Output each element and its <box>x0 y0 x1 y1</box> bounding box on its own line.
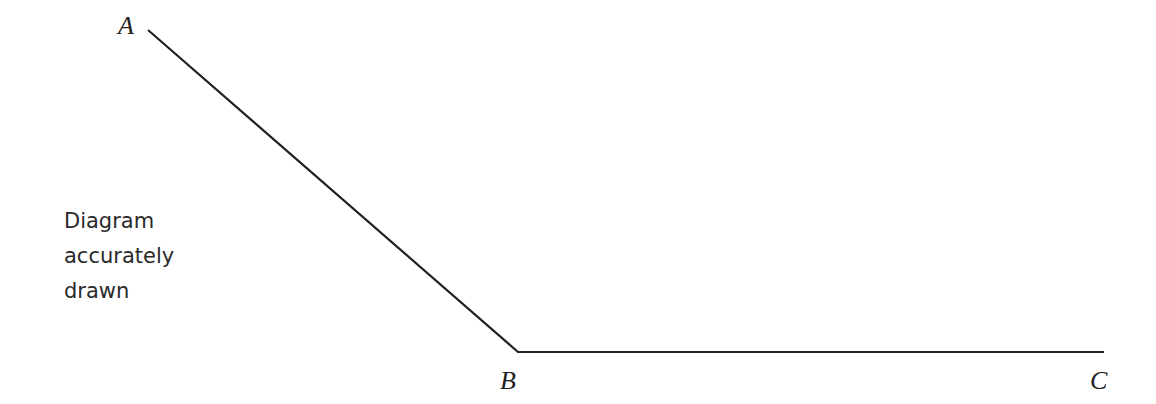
point-label-b: B <box>500 366 516 395</box>
note-line-1: Diagram <box>64 204 174 239</box>
diagram-note: Diagram accurately drawn <box>64 204 174 309</box>
angle-abc-lines <box>148 30 1104 352</box>
point-label-c: C <box>1090 366 1108 395</box>
note-line-2: accurately <box>64 239 174 274</box>
angle-diagram: A B C <box>0 0 1156 404</box>
note-line-3: drawn <box>64 274 174 309</box>
point-label-a: A <box>116 11 134 40</box>
